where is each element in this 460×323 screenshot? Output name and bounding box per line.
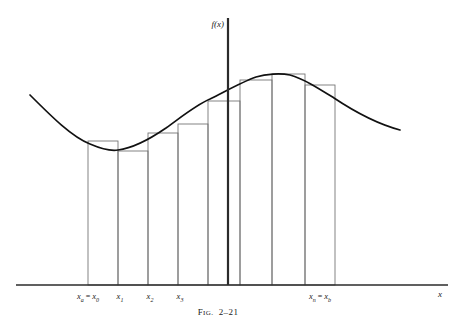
tick-label-x-2: x2: [146, 291, 154, 303]
tick-sub-2: b: [328, 297, 331, 303]
tick-label-x-1: x1: [116, 291, 124, 303]
figure-caption: FIG. 2–21: [198, 307, 239, 317]
tick-label-x-3: x3: [176, 291, 184, 303]
tick-sub-2: 0: [96, 297, 99, 303]
tick-eq: =: [316, 292, 325, 301]
riemann-rect-2: [118, 151, 148, 285]
riemann-rect-4: [178, 124, 208, 285]
figure-container: f(x) x xa = x0 x1 x2 x3 xn = xb FIG. 2–2…: [0, 0, 460, 323]
tick-label-x-n-x-b: xn = xb: [308, 291, 331, 303]
riemann-rect-1: [88, 141, 118, 285]
y-axis-label: f(x): [212, 19, 225, 29]
tick-sub-1: 3: [179, 297, 183, 303]
x-axis-label: x: [437, 289, 442, 299]
caption-prefix-rest: IG.: [203, 309, 213, 317]
tick-sub-1: 2: [150, 297, 153, 303]
rectangle-group: [88, 74, 335, 285]
tick-label-x-a-x-0: xa = x0: [76, 291, 99, 303]
riemann-rect-8: [305, 85, 335, 285]
tick-label-group: xa = x0 x1 x2 x3 xn = xb: [76, 291, 331, 303]
caption-number: 2–21: [219, 307, 239, 317]
function-curve: [30, 74, 400, 150]
riemann-rect-7: [272, 74, 305, 285]
tick-sub-1: 1: [120, 297, 123, 303]
tick-eq: =: [84, 292, 93, 301]
riemann-sum-figure: f(x) x xa = x0 x1 x2 x3 xn = xb FIG. 2–2…: [0, 0, 460, 323]
riemann-rect-6: [240, 80, 272, 285]
riemann-rect-5: [208, 101, 240, 285]
riemann-rect-3: [148, 133, 178, 285]
